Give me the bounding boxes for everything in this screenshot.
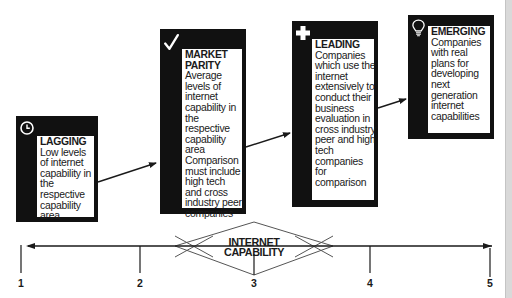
checkmark-icon — [163, 33, 180, 52]
tick-label-5: 5 — [482, 277, 498, 289]
stage-text-lagging: LAGGING Low levels of internet capabilit… — [37, 136, 94, 217]
axis-title: INTERNET CAPABILITY — [209, 237, 299, 257]
clock-icon — [19, 120, 35, 138]
stage-box-market-parity: MARKET PARITY Average levels of internet… — [160, 29, 246, 214]
stage-text-emerging: EMERGING Companies with real plans for d… — [428, 26, 490, 133]
plus-icon — [295, 25, 311, 43]
lightbulb-icon — [411, 18, 426, 38]
axis-arrow-left-icon — [26, 243, 35, 249]
stage-title: LEADING — [315, 40, 374, 51]
arrow-lagging-to-parity — [98, 163, 156, 182]
stage-description: Companies with real plans for developing… — [431, 38, 489, 123]
stage-description: Low levels of internet capability in the… — [40, 148, 92, 222]
stage-title: MARKET PARITY — [185, 50, 235, 71]
stage-text-market-parity: MARKET PARITY Average levels of internet… — [182, 49, 242, 208]
stage-description: Companies which use the internet extensi… — [315, 51, 376, 189]
stage-title: EMERGING — [431, 27, 490, 38]
arrow-parity-to-leading — [246, 133, 290, 147]
tick-label-3: 3 — [246, 277, 262, 289]
tick-label-4: 4 — [362, 277, 378, 289]
tick-label-2: 2 — [132, 277, 148, 289]
page-edge — [505, 0, 512, 298]
tick-label-1: 1 — [13, 277, 29, 289]
axis-title-line2: CAPABILITY — [209, 247, 299, 257]
stage-box-lagging: LAGGING Low levels of internet capabilit… — [16, 116, 98, 222]
stage-box-emerging: EMERGING Companies with real plans for d… — [408, 15, 494, 139]
stage-text-leading: LEADING Companies which use the internet… — [312, 39, 374, 200]
stage-description: Average levels of internet capability in… — [185, 71, 243, 219]
internet-capability-diagram: INTERNET CAPABILITY 1 2 3 4 5 LAGGING Lo… — [0, 0, 512, 298]
axis-arrow-right-icon — [483, 243, 492, 249]
stage-box-leading: LEADING Companies which use the internet… — [292, 21, 378, 207]
stage-title: LAGGING — [40, 137, 94, 148]
arrow-leading-to-emerging — [378, 99, 406, 108]
